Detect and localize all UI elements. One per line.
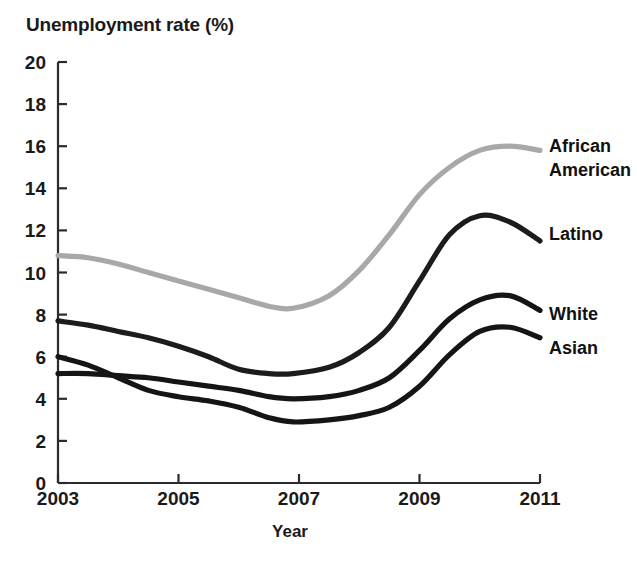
y-tick-label: 2 [35,431,46,452]
y-tick-label: 14 [25,178,47,199]
series-label-line: Latino [549,224,603,244]
chart-plot-area: 02468101214161820 20032005200720092011 A… [0,0,637,566]
y-tick-label: 4 [35,389,46,410]
x-tick-label: 2005 [157,488,200,509]
y-tick-label: 16 [25,136,46,157]
x-axis-ticks: 20032005200720092011 [37,474,561,509]
series-label-line: White [549,304,598,324]
series-label-line: African [549,136,611,156]
series-label-latino: Latino [549,224,603,244]
y-tick-label: 20 [25,52,46,73]
x-tick-label: 2003 [37,488,79,509]
series-labels-group: AfricanAmericanLatinoWhiteAsian [549,136,631,358]
series-line-african-american [58,146,540,309]
y-tick-label: 8 [35,305,46,326]
series-label-asian: Asian [549,338,598,358]
y-tick-label: 6 [35,347,46,368]
y-axis-ticks: 02468101214161820 [25,52,67,494]
y-tick-label: 12 [25,220,46,241]
y-tick-label: 18 [25,94,46,115]
series-label-line: Asian [549,338,598,358]
series-label-line: American [549,160,631,180]
series-label-african-american: AfricanAmerican [549,136,631,180]
series-line-latino [58,215,540,374]
x-axis-title: Year [0,522,580,542]
y-tick-label: 10 [25,263,46,284]
unemployment-rate-chart: Unemployment rate (%) 02468101214161820 … [0,0,637,566]
x-tick-label: 2011 [519,488,561,509]
x-tick-label: 2007 [278,488,320,509]
x-tick-label: 2009 [398,488,440,509]
series-label-white: White [549,304,598,324]
data-series-group [58,146,540,422]
